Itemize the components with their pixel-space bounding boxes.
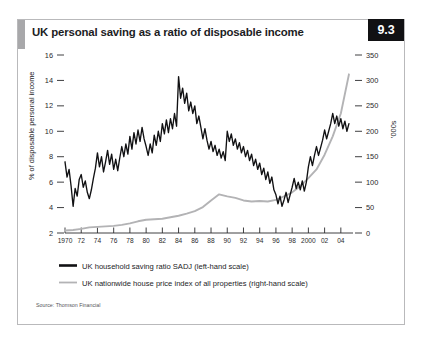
y-left-tick-label: 6 xyxy=(49,178,53,187)
x-tick-label: 76 xyxy=(110,237,118,244)
x-tick-label: 72 xyxy=(78,237,86,244)
series-line-saving-ratio xyxy=(65,77,349,207)
x-tick-label: 90 xyxy=(224,237,232,244)
y-left-tick-label: 16 xyxy=(45,51,53,60)
x-tick-label: 92 xyxy=(240,237,248,244)
y-left-tick-label: 4 xyxy=(49,203,53,212)
chart-legend: UK household saving ratio SADJ (left-han… xyxy=(59,262,308,288)
y-right-tick-label: 150 xyxy=(366,152,378,161)
legend-label-house-price-index: UK nationwide house price index of all p… xyxy=(82,279,308,288)
y-left-tick-label: 8 xyxy=(49,152,53,161)
x-axis-ticks: 1970727476788082848688909294969820000204 xyxy=(58,228,345,244)
y-right-tick-label: 300 xyxy=(366,76,378,85)
x-tick-label: 80 xyxy=(142,237,150,244)
y-right-tick-label: 100 xyxy=(366,178,378,187)
x-tick-label: 94 xyxy=(256,237,264,244)
x-tick-label: 84 xyxy=(175,237,183,244)
y-right-tick-label: 200 xyxy=(366,127,378,136)
chart-plot-area: 246810121416 050100150200250300350 19707… xyxy=(18,20,406,326)
x-tick-label: 04 xyxy=(337,237,345,244)
figure-panel: UK personal saving as a ratio of disposa… xyxy=(17,19,405,325)
y-right-tick-label: 50 xyxy=(366,203,374,212)
legend-label-saving-ratio: UK household saving ratio SADJ (left-han… xyxy=(82,262,249,271)
x-tick-label: 78 xyxy=(126,237,134,244)
x-tick-label: 1970 xyxy=(58,237,73,244)
source-note: Source: Thomson Financial xyxy=(36,302,100,308)
x-tick-label: 82 xyxy=(159,237,167,244)
y-left-tick-label: 10 xyxy=(45,127,53,136)
x-tick-label: 02 xyxy=(321,237,329,244)
y-axis-left-ticks: 246810121416 xyxy=(45,51,64,238)
y-left-tick-label: 14 xyxy=(45,76,53,85)
y-axis-right-label: '000s xyxy=(389,120,398,138)
x-tick-label: 96 xyxy=(272,237,280,244)
x-tick-label: 88 xyxy=(207,237,215,244)
x-tick-label: 74 xyxy=(94,237,102,244)
y-right-tick-label: 0 xyxy=(366,229,370,238)
x-tick-label: 86 xyxy=(191,237,199,244)
y-left-tick-label: 12 xyxy=(45,101,53,110)
y-right-tick-label: 250 xyxy=(366,101,378,110)
x-tick-label: 2000 xyxy=(301,237,316,244)
y-left-tick-label: 2 xyxy=(49,229,53,238)
y-axis-right-ticks: 050100150200250300350 xyxy=(355,51,378,238)
chart-svg: 246810121416 050100150200250300350 19707… xyxy=(18,20,406,326)
y-right-tick-label: 350 xyxy=(366,51,378,60)
x-tick-label: 98 xyxy=(288,237,296,244)
y-axis-left-label: % of disposable personal income xyxy=(27,72,36,180)
